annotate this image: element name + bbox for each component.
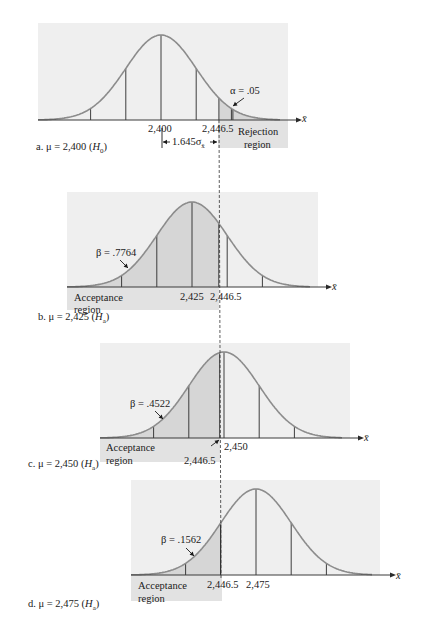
sigma-dimension-arrow-left-head bbox=[163, 140, 167, 144]
caption-suffix: ) bbox=[96, 598, 100, 609]
panel-a-background bbox=[38, 23, 288, 120]
panel-a-tick-mu: 2,400 bbox=[148, 123, 172, 134]
panel-d-beta-label: β = .1562 bbox=[161, 534, 201, 545]
region-line-1: Acceptance bbox=[138, 579, 187, 592]
sigma-sub: x̄ bbox=[201, 142, 205, 150]
caption-suffix: ) bbox=[104, 141, 108, 152]
caption-suffix: ) bbox=[95, 458, 99, 469]
panel-b-tick-critical: 2,446.5 bbox=[210, 291, 242, 302]
caption-h: H bbox=[92, 141, 100, 152]
caption-h: H bbox=[85, 598, 93, 609]
region-line-1: Acceptance bbox=[74, 292, 123, 304]
panel-c-beta-label: β = .4522 bbox=[130, 398, 170, 409]
region-line-1: Acceptance bbox=[106, 441, 155, 454]
sigma-text: 1.645σ bbox=[172, 136, 201, 147]
panel-b-axis-label: x̄ bbox=[332, 281, 337, 292]
panel-a-axis-label: x̄ bbox=[302, 113, 307, 124]
panel-b-beta-label: β = .7764 bbox=[96, 247, 136, 258]
caption-text: a. μ = 2,400 ( bbox=[36, 141, 92, 152]
panel-d-axis-label: x̄ bbox=[396, 570, 401, 581]
caption-suffix: ) bbox=[106, 311, 110, 322]
region-line-2: region bbox=[106, 454, 155, 467]
panel-b-tick-mu: 2,425 bbox=[180, 291, 204, 302]
sigma-dimension-arrow-right-head bbox=[213, 140, 217, 144]
panel-c-background bbox=[100, 343, 350, 438]
caption-h: H bbox=[95, 311, 103, 322]
region-line-1: Rejection bbox=[238, 125, 278, 138]
region-line-2: region bbox=[138, 592, 187, 605]
panel-d-tick-critical: 2,446.5 bbox=[207, 579, 239, 590]
caption-text: c. μ = 2,450 ( bbox=[28, 458, 84, 469]
caption-text: b. μ = 2,425 ( bbox=[38, 311, 95, 322]
caption-text: d. μ = 2,475 ( bbox=[28, 598, 85, 609]
panel-d-background bbox=[131, 480, 380, 575]
caption-h: H bbox=[84, 458, 92, 469]
panel-a-tick-critical: 2,446.5 bbox=[202, 123, 234, 134]
panel-c-caption: c. μ = 2,450 (Ha) bbox=[28, 458, 99, 472]
panel-a-region-label: Rejectionregion bbox=[238, 125, 278, 151]
region-line-2: region bbox=[238, 138, 278, 151]
panel-c-region-label: Acceptanceregion bbox=[106, 441, 155, 467]
panel-d-tick-mu: 2,475 bbox=[246, 579, 270, 590]
panel-b-caption: b. μ = 2,425 (Ha) bbox=[38, 311, 109, 325]
panel-c-axis-label: x̄ bbox=[364, 432, 369, 443]
panel-a-alpha-label: α = .05 bbox=[230, 85, 260, 96]
panel-a-sigma-label: 1.645σx̄ bbox=[172, 136, 205, 152]
panel-d-caption: d. μ = 2,475 (Ha) bbox=[28, 598, 99, 612]
panel-c-tick-critical: 2,446.5 bbox=[184, 455, 216, 466]
panel-a-caption: a. μ = 2,400 (H0) bbox=[36, 141, 107, 155]
panel-d-region-label: Acceptanceregion bbox=[138, 579, 187, 605]
panel-c-tick-mu: 2,450 bbox=[224, 441, 248, 452]
